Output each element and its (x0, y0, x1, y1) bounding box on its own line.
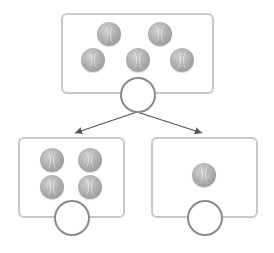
tennis-ball-icon (40, 148, 64, 172)
tennis-ball-icon (81, 48, 105, 72)
right-part-answer-circle[interactable] (187, 200, 223, 236)
tennis-ball-icon (97, 22, 121, 46)
left-part-answer-circle[interactable] (54, 200, 90, 236)
tennis-ball-icon (192, 163, 216, 187)
tennis-ball-icon (126, 48, 150, 72)
tennis-ball-icon (78, 148, 102, 172)
tennis-ball-icon (148, 22, 172, 46)
arrow-to-left-part (75, 112, 137, 133)
tennis-ball-icon (170, 48, 194, 72)
tennis-ball-icon (40, 175, 64, 199)
arrow-to-right-part (137, 112, 202, 133)
tennis-ball-icon (78, 175, 102, 199)
whole-answer-circle[interactable] (120, 77, 156, 113)
